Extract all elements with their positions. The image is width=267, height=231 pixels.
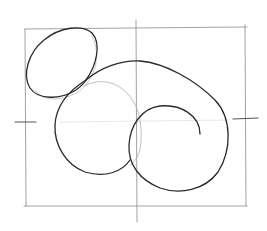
sketch-canvas — [0, 0, 267, 231]
frame-left — [25, 29, 26, 206]
frame-right — [245, 25, 246, 206]
faint-ellipse-guide — [35, 36, 97, 99]
spiral-outer — [86, 61, 228, 191]
right-tick — [233, 118, 258, 119]
faint-circle-guide — [84, 82, 141, 165]
main-strokes — [26, 28, 228, 191]
horizontal-guide-faint — [60, 120, 230, 122]
small-ellipse — [26, 28, 97, 97]
